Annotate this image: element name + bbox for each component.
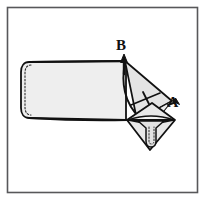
label-b-text: B (116, 37, 126, 53)
figure-container: B A (0, 0, 206, 201)
main-body-shape (21, 61, 126, 120)
main-body-top-edge (29, 61, 125, 62)
diagram-canvas: B A (0, 0, 206, 201)
label-a-text: A (168, 94, 179, 110)
